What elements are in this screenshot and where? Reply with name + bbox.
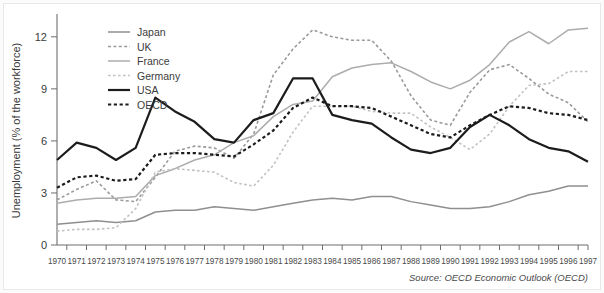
y-axis-tick-label: 12 [35, 31, 47, 43]
x-axis-tick-label: 1981 [264, 257, 283, 266]
y-axis-tick-label: 3 [41, 187, 47, 199]
y-axis-tick-label: 0 [41, 239, 47, 251]
x-axis-tick-label: 1980 [245, 257, 264, 266]
unemployment-line-chart: 036912 197019711972197319741975197619771… [0, 0, 604, 293]
x-axis-tick-label: 1997 [579, 257, 598, 266]
x-axis-tick-label: 1983 [304, 257, 323, 266]
x-axis: 1970197119721973197419751976197719781979… [48, 245, 598, 266]
y-axis-tick-label: 9 [41, 83, 47, 95]
x-axis-tick-label: 1984 [323, 257, 342, 266]
legend-label-usa: USA [137, 84, 159, 96]
source-note: Source: OECD Economic Outlook (OECD) [409, 272, 588, 283]
x-axis-tick-label: 1982 [284, 257, 303, 266]
x-axis-tick-label: 1986 [363, 257, 382, 266]
x-axis-tick-label: 1990 [441, 257, 460, 266]
x-axis-tick-label: 1994 [520, 257, 539, 266]
x-axis-tick-label: 1976 [166, 257, 185, 266]
y-axis: 036912 [35, 14, 57, 251]
x-axis-tick-label: 1974 [127, 257, 146, 266]
legend-label-japan: Japan [137, 26, 166, 38]
x-axis-tick-label: 1972 [87, 257, 106, 266]
x-axis-tick-label: 1975 [146, 257, 165, 266]
x-axis-tick-label: 1978 [205, 257, 224, 266]
x-axis-tick-label: 1977 [186, 257, 205, 266]
legend-label-oecd: OECD [137, 99, 168, 111]
x-axis-tick-label: 1971 [68, 257, 87, 266]
x-axis-tick-label: 1991 [461, 257, 480, 266]
x-axis-tick-label: 1979 [225, 257, 244, 266]
x-axis-tick-label: 1989 [422, 257, 441, 266]
chart-legend: JapanUKFranceGermanyUSAOECD [108, 26, 181, 111]
x-axis-tick-label: 1995 [540, 257, 559, 266]
legend-label-germany: Germany [137, 70, 181, 82]
legend-label-uk: UK [137, 41, 152, 53]
x-axis-tick-label: 1985 [343, 257, 362, 266]
x-axis-tick-label: 1996 [559, 257, 578, 266]
x-axis-tick-label: 1988 [402, 257, 421, 266]
y-axis-tick-label: 6 [41, 135, 47, 147]
chart-figure: 036912 197019711972197319741975197619771… [0, 0, 604, 293]
y-axis-title: Unemployment (% of the workforce) [10, 43, 22, 218]
x-axis-tick-label: 1993 [500, 257, 519, 266]
x-axis-tick-label: 1987 [382, 257, 401, 266]
x-axis-tick-label: 1973 [107, 257, 126, 266]
x-axis-tick-label: 1970 [48, 257, 67, 266]
x-axis-tick-label: 1992 [481, 257, 500, 266]
legend-label-france: France [137, 55, 170, 67]
